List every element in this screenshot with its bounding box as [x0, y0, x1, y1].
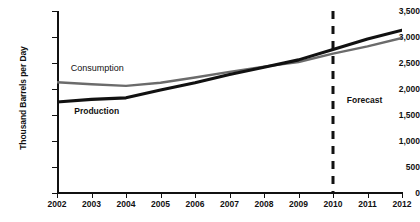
x-tick-label: 2011	[358, 199, 376, 209]
x-tick-label: 2006	[186, 199, 205, 209]
forecast-label: Forecast	[347, 95, 382, 105]
x-tick-mark	[57, 193, 58, 198]
x-tick-mark	[368, 193, 369, 198]
x-tick-label: 2008	[255, 199, 274, 209]
x-tick-mark	[195, 193, 196, 198]
line-chart: Thousand Barrels per Day 3,5003,0002,500…	[0, 0, 420, 222]
x-tick-label: 2012	[393, 199, 412, 209]
x-tick-mark	[333, 193, 334, 198]
x-tick-label: 2004	[117, 199, 136, 209]
x-tick-mark	[161, 193, 162, 198]
x-tick-mark	[299, 193, 300, 198]
x-tick-label: 2009	[289, 199, 308, 209]
y-axis-title: Thousand Barrels per Day	[18, 13, 28, 183]
consumption-series-label: Consumption	[71, 63, 124, 73]
x-tick-label: 2007	[220, 199, 239, 209]
x-tick-label: 2002	[48, 199, 67, 209]
x-tick-mark	[264, 193, 265, 198]
x-tick-mark	[92, 193, 93, 198]
x-tick-mark	[126, 193, 127, 198]
x-tick-label: 2005	[151, 199, 170, 209]
production-series-label: Production	[74, 106, 119, 116]
x-tick-mark	[402, 193, 403, 198]
x-tick-mark	[230, 193, 231, 198]
x-tick-label: 2010	[324, 199, 343, 209]
x-tick-label: 2003	[82, 199, 101, 209]
